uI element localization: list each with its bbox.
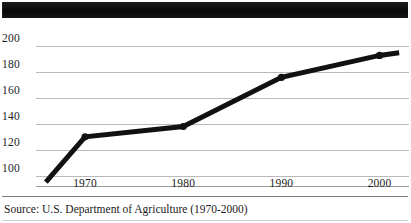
line-series-1: [46, 53, 399, 182]
x-tick-label-1990: 1990: [251, 176, 311, 190]
plot-area: 100120140160180200: [0, 22, 411, 187]
data-point-2000: [376, 52, 383, 59]
data-point-1980: [180, 123, 187, 130]
source-caption: Source: U.S. Department of Agriculture (…: [4, 202, 404, 216]
x-axis-tick-labels: 1970198019902000: [0, 176, 411, 192]
caption-divider: [2, 196, 408, 197]
line-series-svg: [0, 22, 411, 187]
figure-chart: 100120140160180200 1970198019902000 Sour…: [0, 0, 411, 223]
x-tick-label-2000: 2000: [350, 176, 410, 190]
x-tick-label-1970: 1970: [55, 176, 115, 190]
footer-divider: [2, 220, 408, 221]
x-tick-label-1980: 1980: [153, 176, 213, 190]
data-point-1970: [81, 133, 88, 140]
redacted-title-band: [2, 2, 408, 18]
data-point-1990: [278, 74, 285, 81]
